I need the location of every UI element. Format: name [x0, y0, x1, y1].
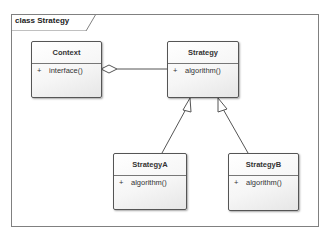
generalization-connector-a[interactable]: [162, 98, 191, 153]
class-name: StrategyA: [114, 154, 186, 176]
operation-name: algorithm(): [131, 176, 167, 190]
operation-row[interactable]: + interface(): [32, 64, 101, 78]
inheritance-arrow-icon: [218, 98, 227, 112]
operation-row[interactable]: + algorithm(): [229, 176, 298, 190]
operation-name: interface(): [49, 64, 83, 78]
operation-name: algorithm(): [185, 64, 221, 78]
operation-row[interactable]: + algorithm(): [168, 64, 238, 78]
inheritance-arrow-icon: [183, 98, 191, 112]
operation-name: algorithm(): [246, 176, 282, 190]
class-strategy[interactable]: Strategy + algorithm(): [167, 41, 239, 98]
class-strategy-a[interactable]: StrategyA + algorithm(): [113, 153, 187, 210]
class-context[interactable]: Context + interface(): [31, 41, 102, 98]
class-strategy-b[interactable]: StrategyB + algorithm(): [228, 153, 299, 211]
visibility-public: +: [173, 64, 177, 78]
visibility-public: +: [37, 64, 41, 78]
visibility-public: +: [119, 176, 123, 190]
aggregation-diamond-icon: [101, 65, 117, 73]
class-name: Context: [32, 42, 101, 64]
generalization-connector-b[interactable]: [218, 98, 248, 153]
class-name: StrategyB: [229, 154, 298, 176]
visibility-public: +: [234, 176, 238, 190]
operation-row[interactable]: + algorithm(): [114, 176, 186, 190]
aggregation-connector[interactable]: [101, 65, 167, 73]
class-name: Strategy: [168, 42, 238, 64]
